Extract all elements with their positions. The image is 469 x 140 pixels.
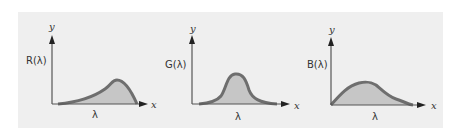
- blue-function-label: B(λ): [307, 60, 328, 70]
- x-axis-label: x: [431, 101, 437, 111]
- chart-red: y x R(λ) λ: [0, 0, 150, 140]
- chart-blue: y x B(λ) λ: [309, 0, 459, 140]
- green-response-plot: [155, 0, 305, 140]
- x-axis-label: x: [294, 101, 300, 111]
- chart-green: y x G(λ) λ: [155, 0, 305, 140]
- blue-response-plot: [309, 0, 459, 140]
- y-axis-label: y: [329, 25, 335, 35]
- wavelength-label: λ: [92, 110, 98, 120]
- wavelength-label: λ: [372, 112, 378, 122]
- wavelength-label: λ: [235, 112, 241, 122]
- red-function-label: R(λ): [26, 56, 47, 66]
- green-function-label: G(λ): [165, 60, 186, 70]
- red-response-plot: [0, 0, 150, 140]
- y-axis-label: y: [49, 22, 55, 32]
- y-axis-label: y: [190, 24, 196, 34]
